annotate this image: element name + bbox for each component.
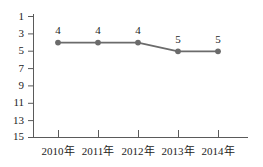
y-tick-label: 5 bbox=[0, 45, 24, 56]
data-point-label: 5 bbox=[168, 34, 188, 45]
data-point-marker bbox=[215, 48, 221, 54]
y-axis-ticks bbox=[28, 17, 33, 138]
data-point-marker bbox=[135, 40, 141, 46]
data-point-label: 4 bbox=[48, 25, 68, 36]
y-tick-label: 3 bbox=[0, 28, 24, 39]
data-point-marker bbox=[55, 40, 61, 46]
line-chart: 1 3 5 7 9 11 13 15 4 4 4 5 5 2010年 2011年… bbox=[0, 0, 263, 167]
y-tick-label: 11 bbox=[0, 97, 24, 108]
data-point-label: 4 bbox=[88, 25, 108, 36]
data-point-marker bbox=[175, 48, 181, 54]
y-tick-label: 9 bbox=[0, 80, 24, 91]
y-tick-label: 7 bbox=[0, 63, 24, 74]
data-point-label: 5 bbox=[208, 34, 228, 45]
y-tick-label: 1 bbox=[0, 11, 24, 22]
y-tick-label: 15 bbox=[0, 131, 24, 142]
data-point-label: 4 bbox=[128, 25, 148, 36]
y-tick-label: 13 bbox=[0, 115, 24, 126]
data-point-marker bbox=[95, 40, 101, 46]
x-axis-ticks bbox=[59, 130, 219, 137]
x-tick-label-2014: 2014年 bbox=[193, 145, 243, 157]
